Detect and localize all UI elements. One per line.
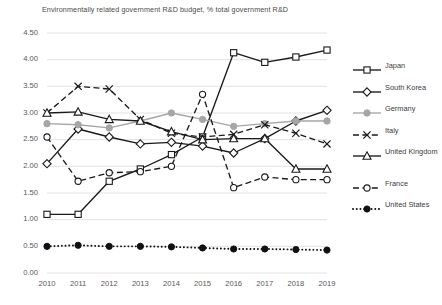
data-point-marker bbox=[44, 243, 50, 249]
data-point-marker bbox=[364, 67, 370, 73]
legend-item-label: South Korea bbox=[385, 83, 442, 93]
legend-item-label: United Kingdom bbox=[385, 147, 442, 157]
legend-item-united-states[interactable]: United States bbox=[352, 201, 442, 213]
data-point-marker bbox=[106, 243, 112, 249]
data-point-marker bbox=[293, 118, 299, 124]
series-united-states bbox=[44, 242, 330, 253]
legend-key-swatch bbox=[352, 105, 382, 117]
series-japan bbox=[44, 47, 330, 217]
data-point-marker bbox=[324, 177, 330, 183]
legend-item-label: United States bbox=[385, 200, 442, 210]
data-point-marker bbox=[231, 50, 237, 56]
data-point-marker bbox=[75, 122, 81, 128]
series-line bbox=[47, 113, 327, 128]
data-point-marker bbox=[199, 245, 205, 251]
legend-item-label: Italy bbox=[385, 126, 442, 136]
legend-item-japan[interactable]: Japan bbox=[352, 62, 442, 74]
data-point-marker bbox=[44, 134, 50, 140]
y-axis-tick-label: 2.50 bbox=[8, 134, 38, 143]
data-point-marker bbox=[364, 184, 370, 190]
data-point-marker bbox=[199, 116, 205, 122]
data-point-marker bbox=[106, 170, 112, 176]
y-axis-tick-label: 1.50 bbox=[8, 188, 38, 197]
data-point-marker bbox=[168, 110, 174, 116]
y-axis-tick-label: 2.00 bbox=[8, 161, 38, 170]
data-point-marker bbox=[262, 59, 268, 65]
legend-item-germany[interactable]: Germany bbox=[352, 105, 442, 117]
y-axis-tick-label: 4.50 bbox=[8, 28, 38, 37]
series-line bbox=[47, 112, 327, 169]
data-point-marker bbox=[75, 242, 81, 248]
legend-item-france[interactable]: France bbox=[352, 180, 442, 192]
series-south-korea bbox=[43, 106, 331, 168]
y-axis-tick-label: 3.50 bbox=[8, 81, 38, 90]
x-axis-tick-label: 2019 bbox=[307, 279, 347, 288]
data-point-marker bbox=[106, 125, 112, 131]
legend-key-swatch bbox=[352, 84, 382, 96]
data-point-marker bbox=[324, 118, 330, 124]
data-point-marker bbox=[364, 206, 370, 212]
data-point-marker bbox=[262, 174, 268, 180]
y-axis-tick-label: 3.00 bbox=[8, 108, 38, 117]
gridlines bbox=[47, 33, 327, 273]
series-line bbox=[47, 110, 327, 163]
data-point-marker bbox=[230, 149, 238, 157]
data-point-marker bbox=[137, 169, 143, 175]
data-point-marker bbox=[324, 47, 330, 53]
chart-legend: JapanSouth KoreaGermanyItalyUnited Kingd… bbox=[352, 62, 442, 223]
data-point-marker bbox=[364, 110, 370, 116]
data-point-marker bbox=[293, 246, 299, 252]
data-point-marker bbox=[75, 178, 81, 184]
series-line bbox=[47, 94, 327, 187]
data-point-marker bbox=[44, 211, 50, 217]
legend-item-label: Germany bbox=[385, 104, 442, 114]
data-point-marker bbox=[323, 140, 330, 147]
y-axis-tick-label: 4.00 bbox=[8, 54, 38, 63]
series-layer bbox=[43, 47, 331, 253]
y-axis-tick-label: 0.00 bbox=[8, 268, 38, 277]
data-point-marker bbox=[199, 91, 205, 97]
data-point-marker bbox=[168, 163, 174, 169]
legend-key-swatch bbox=[352, 148, 382, 160]
data-point-marker bbox=[75, 211, 81, 217]
series-france bbox=[44, 91, 330, 191]
data-point-marker bbox=[168, 152, 174, 158]
y-axis-tick-label: 1.00 bbox=[8, 214, 38, 223]
data-point-marker bbox=[168, 244, 174, 250]
data-point-marker bbox=[324, 247, 330, 253]
legend-item-label: France bbox=[385, 179, 442, 189]
data-point-marker bbox=[262, 246, 268, 252]
chart-container: Environmentally related government R&D b… bbox=[0, 0, 442, 305]
data-point-marker bbox=[230, 123, 236, 129]
legend-key-swatch bbox=[352, 201, 382, 213]
data-point-marker bbox=[293, 177, 299, 183]
legend-key-swatch bbox=[352, 62, 382, 74]
data-point-marker bbox=[136, 140, 144, 148]
series-italy bbox=[43, 83, 330, 148]
legend-item-label: Japan bbox=[385, 61, 442, 71]
legend-item-united-kingdom[interactable]: United Kingdom bbox=[352, 148, 442, 170]
data-point-marker bbox=[231, 246, 237, 252]
data-point-marker bbox=[44, 120, 50, 126]
legend-key-swatch bbox=[352, 180, 382, 192]
data-point-marker bbox=[293, 54, 299, 60]
data-point-marker bbox=[231, 185, 237, 191]
data-point-marker bbox=[363, 87, 371, 95]
legend-item-south-korea[interactable]: South Korea bbox=[352, 84, 442, 96]
legend-key-swatch bbox=[352, 127, 382, 139]
y-axis-tick-label: 0.50 bbox=[8, 241, 38, 250]
legend-item-italy[interactable]: Italy bbox=[352, 127, 442, 139]
data-point-marker bbox=[137, 243, 143, 249]
data-point-marker bbox=[106, 178, 112, 184]
